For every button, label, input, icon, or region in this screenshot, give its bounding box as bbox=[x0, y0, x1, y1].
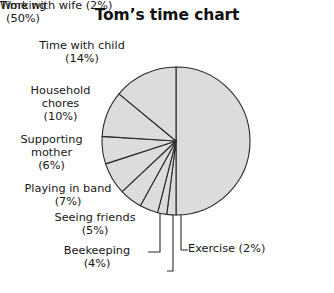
slice-label-beekeeping-percent: (4%) bbox=[46, 258, 148, 271]
slice-label-time-with-child-name: Time with child bbox=[39, 39, 125, 52]
slice-label-exercise: Exercise (2%) bbox=[188, 243, 308, 256]
slice-label-working: Working (50%) bbox=[0, 0, 46, 26]
slice-label-supporting-mother: Supporting mother (6%) bbox=[4, 134, 99, 172]
slice-label-supporting-mother-name2: mother bbox=[4, 147, 99, 160]
pie-slice-working bbox=[176, 67, 250, 215]
pie-chart-figure: Tom’s time chart Time with child (14%) H… bbox=[0, 0, 334, 293]
slice-label-household-chores-name1: Household bbox=[31, 84, 91, 97]
slice-label-household-chores-percent: (10%) bbox=[18, 111, 103, 124]
slice-label-time-with-child-percent: (14%) bbox=[22, 53, 142, 66]
slice-label-working-name: Working bbox=[0, 0, 46, 12]
slice-label-supporting-mother-name1: Supporting bbox=[20, 133, 82, 146]
slice-label-household-chores: Household chores (10%) bbox=[18, 85, 103, 123]
slice-label-supporting-mother-percent: (6%) bbox=[4, 160, 99, 173]
slice-label-playing-in-band-name: Playing in band bbox=[25, 182, 112, 195]
slice-label-beekeeping-name: Beekeeping bbox=[64, 244, 130, 257]
slice-label-beekeeping: Beekeeping (4%) bbox=[46, 245, 148, 271]
slice-label-working-percent: (50%) bbox=[0, 13, 46, 26]
leader-line-exercise bbox=[181, 215, 188, 250]
slice-label-household-chores-name2: chores bbox=[18, 98, 103, 111]
slice-label-seeing-friends: Seeing friends (5%) bbox=[34, 212, 156, 238]
leader-line-time-with-wife bbox=[167, 215, 173, 271]
slice-label-time-with-child: Time with child (14%) bbox=[22, 40, 142, 66]
slice-label-playing-in-band: Playing in band (7%) bbox=[2, 183, 134, 209]
slice-label-seeing-friends-percent: (5%) bbox=[34, 225, 156, 238]
slice-label-seeing-friends-name: Seeing friends bbox=[54, 211, 135, 224]
slice-label-playing-in-band-percent: (7%) bbox=[2, 196, 134, 209]
slice-label-exercise-text: Exercise (2%) bbox=[188, 242, 265, 255]
